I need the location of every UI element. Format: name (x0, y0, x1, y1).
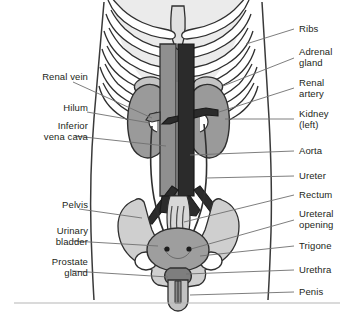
label-kidney-left: Kidney (left) (299, 109, 354, 130)
leader-penis (190, 292, 294, 295)
label-pelvis: Pelvis (0, 200, 88, 211)
anatomy-figure: Renal vein Hilum Inferior vena cava Pelv… (0, 0, 354, 314)
label-hilum: Hilum (0, 103, 88, 114)
label-adrenal-gland: Adrenal gland (299, 47, 354, 68)
label-renal-artery: Renal artery (299, 78, 354, 99)
label-prostate-gland: Prostate gland (0, 257, 88, 278)
penis-organ (168, 280, 188, 311)
label-ureteral-opening: Ureteral opening (299, 209, 354, 230)
label-ribs: Ribs (299, 24, 354, 35)
label-trigone: Trigone (299, 241, 354, 252)
label-renal-vein: Renal vein (0, 72, 88, 83)
leader-ureter (206, 176, 294, 178)
label-aorta: Aorta (299, 146, 354, 157)
label-ureter: Ureter (299, 171, 354, 182)
label-penis: Penis (299, 287, 354, 298)
label-rectum: Rectum (299, 190, 354, 201)
ureteral-opening-right-dot (186, 246, 191, 251)
label-urethra: Urethra (299, 265, 354, 276)
label-urinary-bladder: Urinary bladder (0, 226, 88, 247)
urinary-bladder-organ (147, 228, 209, 271)
label-inferior-vena-cava: Inferior vena cava (0, 121, 88, 142)
ureteral-opening-left-dot (164, 246, 169, 251)
